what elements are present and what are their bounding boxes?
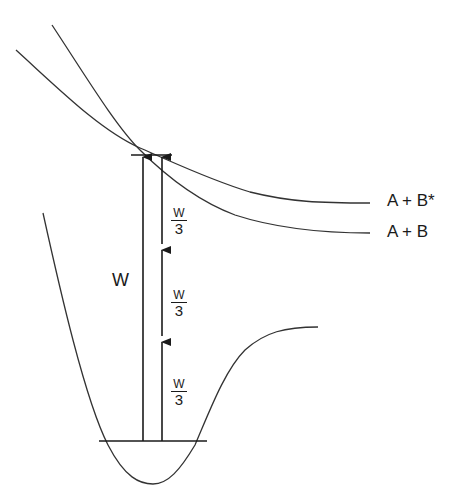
diagram-svg	[0, 0, 459, 502]
repulsive-curve-a-plus-b-star	[16, 50, 370, 203]
fraction-denominator: 3	[171, 303, 187, 319]
fraction-denominator: 3	[171, 392, 187, 408]
fraction-denominator: 3	[171, 221, 187, 237]
ground-state-well-curve	[43, 213, 318, 484]
fraction-numerator: W	[171, 378, 187, 392]
state-label-a-plus-b: A + B	[387, 222, 428, 242]
fraction-label-step-3: W 3	[171, 207, 187, 237]
fraction-label-step-1: W 3	[171, 378, 187, 408]
state-label-a-plus-b-star: A + B*	[387, 191, 435, 211]
diagram-canvas: A + B* A + B W W 3 W 3 W 3	[0, 0, 459, 502]
fraction-numerator: W	[171, 289, 187, 303]
fraction-label-step-2: W 3	[171, 289, 187, 319]
fraction-numerator: W	[171, 207, 187, 221]
single-photon-label: W	[112, 270, 129, 291]
